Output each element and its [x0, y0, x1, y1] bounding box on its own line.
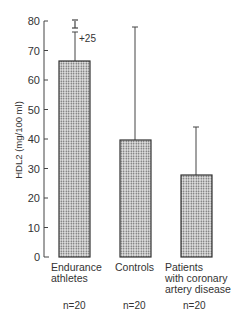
- y-tick-80: 80: [28, 15, 40, 27]
- y-axis: 0 10 20 30 40 50 60 70 80 HDL2 (mg/100 m…: [13, 15, 49, 263]
- bar-controls: [120, 27, 151, 257]
- y-tick-20: 20: [28, 192, 40, 204]
- category-label-1-line-2: athletes: [51, 272, 88, 284]
- n-label-1: n=20: [63, 300, 86, 311]
- category-label-3-line-3: artery disease: [165, 283, 231, 295]
- y-tick-50: 50: [28, 104, 40, 116]
- n-label-3: n=20: [183, 300, 206, 311]
- y-tick-10: 10: [28, 222, 40, 234]
- y-tick-40: 40: [28, 133, 40, 145]
- n-label-2: n=20: [123, 300, 146, 311]
- category-labels: Endurance athletes Controls Patients wit…: [51, 261, 231, 295]
- y-tick-0: 0: [34, 251, 40, 263]
- bar-endurance-athletes: +25: [59, 20, 96, 257]
- hdl2-bar-chart: 0 10 20 30 40 50 60 70 80 HDL2 (mg/100 m…: [0, 0, 249, 322]
- y-axis-label: HDL2 (mg/100 ml): [13, 101, 24, 179]
- sample-size-labels: n=20 n=20 n=20: [63, 300, 206, 311]
- error-annotation: +25: [79, 33, 96, 44]
- y-tick-70: 70: [28, 45, 40, 57]
- bar-patients-cad: [181, 127, 212, 257]
- y-tick-60: 60: [28, 74, 40, 86]
- y-tick-30: 30: [28, 163, 40, 175]
- category-label-2: Controls: [115, 261, 154, 273]
